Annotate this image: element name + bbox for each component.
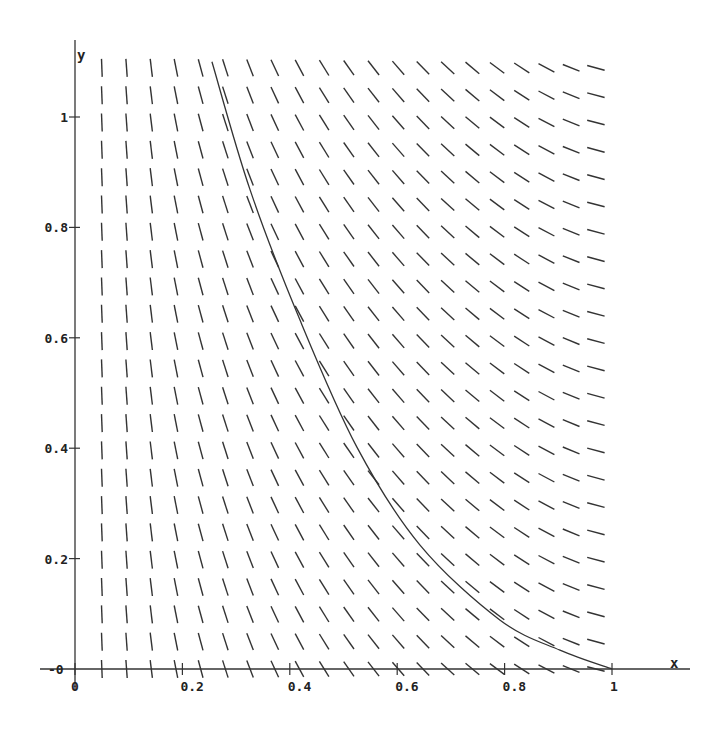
slope-segment <box>441 198 454 210</box>
slope-segment <box>344 197 354 212</box>
slope-segment <box>490 390 504 401</box>
slope-segment <box>368 279 379 293</box>
slope-segment <box>223 497 229 514</box>
slope-segment <box>344 88 354 103</box>
slope-segment <box>417 608 430 621</box>
slope-segment <box>295 60 304 76</box>
slope-segment <box>198 114 203 131</box>
slope-segment <box>247 223 254 240</box>
slope-segment <box>539 337 555 345</box>
slope-segment <box>295 224 304 240</box>
slope-segment <box>587 557 604 562</box>
slope-segment <box>198 387 203 404</box>
slope-segment <box>441 417 454 429</box>
slope-segment <box>514 391 529 401</box>
slope-segment <box>587 475 604 480</box>
slope-segment <box>319 334 329 349</box>
slope-segment <box>563 556 580 563</box>
slope-segment <box>271 634 279 650</box>
slope-segment <box>271 196 279 212</box>
slope-segment <box>490 226 504 237</box>
slope-segment <box>441 554 454 566</box>
y-tick-label: 0.4 <box>45 441 69 456</box>
slope-segment <box>319 306 329 321</box>
slope-segment <box>392 334 404 348</box>
slope-segment <box>587 93 604 98</box>
slope-segment <box>466 308 480 320</box>
slope-segment <box>392 116 404 130</box>
slope-segment <box>417 225 430 238</box>
slope-segment <box>490 172 504 183</box>
slope-segment <box>102 223 103 241</box>
slope-segment <box>271 224 279 240</box>
x-tick-label: 0.4 <box>288 679 312 694</box>
slope-segment <box>490 527 504 538</box>
slope-segment <box>587 175 604 180</box>
slope-segment <box>344 252 354 267</box>
slope-segment <box>539 118 555 126</box>
slope-segment <box>466 281 480 293</box>
slope-segment <box>271 169 279 185</box>
slope-segment <box>441 171 454 183</box>
slope-segment <box>344 607 354 622</box>
slope-segment <box>490 472 504 483</box>
slope-segment <box>174 578 178 596</box>
slope-segment <box>514 336 529 346</box>
slope-segment <box>247 305 254 322</box>
slope-segment <box>466 89 480 101</box>
slope-segment <box>102 196 103 214</box>
slope-segment <box>271 60 279 76</box>
slope-segment <box>247 524 254 541</box>
slope-segment <box>563 638 580 645</box>
slope-segment <box>563 365 580 372</box>
slope-segment <box>587 585 604 590</box>
slope-segment <box>417 171 430 184</box>
slope-segment <box>466 609 480 621</box>
slope-segment <box>223 223 229 240</box>
slope-segment <box>150 360 152 378</box>
slope-segment <box>417 471 430 484</box>
slope-segment <box>563 611 580 618</box>
slope-segment <box>490 308 504 319</box>
slope-segment <box>417 280 430 293</box>
slope-segment <box>247 442 254 459</box>
slope-segment <box>150 442 152 460</box>
slope-segment <box>587 339 604 344</box>
slope-segment <box>247 360 254 377</box>
slope-segment <box>102 359 103 377</box>
slope-segment <box>150 168 152 186</box>
slope-segment <box>319 279 329 294</box>
slope-segment <box>223 606 229 623</box>
slope-segment <box>150 114 152 132</box>
slope-segment <box>514 227 529 237</box>
slope-segment <box>466 199 480 211</box>
slope-segment <box>368 143 379 157</box>
slope-segment <box>441 390 454 402</box>
slope-segment <box>319 470 329 485</box>
slope-segment <box>198 169 203 186</box>
slope-segment <box>126 196 127 214</box>
slope-segment <box>126 605 127 623</box>
slope-segment <box>247 551 254 568</box>
slope-segment <box>514 364 529 374</box>
slope-segment <box>319 416 329 431</box>
slope-segment <box>198 196 203 213</box>
slope-segment <box>295 115 304 131</box>
slope-segment <box>344 470 354 485</box>
slope-segment <box>247 633 254 650</box>
slope-segment <box>102 414 103 432</box>
slope-segment <box>344 306 354 321</box>
slope-segment <box>271 278 279 294</box>
slope-segment <box>319 525 329 540</box>
slope-segment <box>368 197 379 211</box>
slope-segment <box>295 606 304 622</box>
slope-segment <box>295 251 304 267</box>
slope-segment <box>466 417 480 429</box>
slope-segment <box>514 528 529 538</box>
slope-segment <box>368 361 379 375</box>
slope-segment <box>344 170 354 185</box>
slope-segment <box>344 224 354 239</box>
slope-segment <box>514 145 529 155</box>
slope-segment <box>319 60 329 75</box>
slope-segment <box>441 226 454 238</box>
